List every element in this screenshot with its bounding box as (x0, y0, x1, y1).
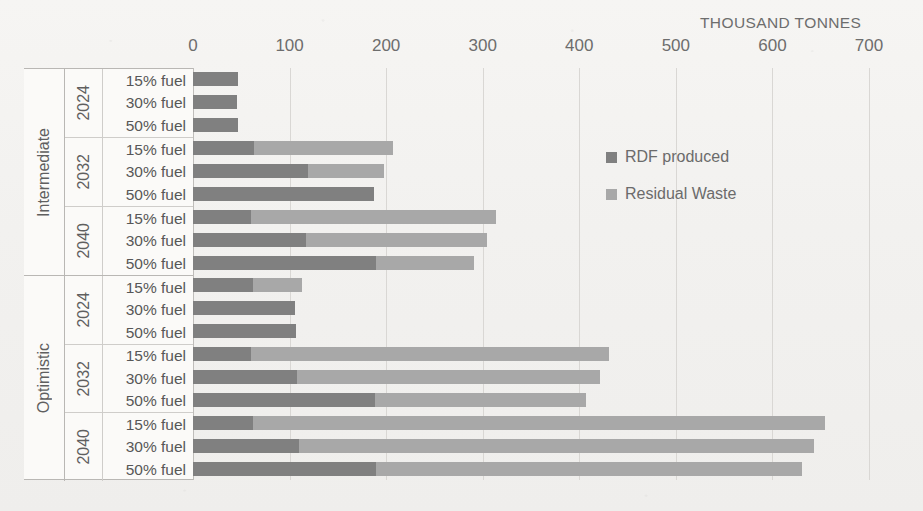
fuel-label: 15% fuel (103, 73, 193, 89)
fuel-label: 30% fuel (103, 371, 193, 387)
bar-segment-rdf-produced (193, 278, 253, 292)
fuel-label: 15% fuel (103, 417, 193, 433)
year-label: 2024 (65, 69, 103, 137)
bar-segment-residual-waste (375, 393, 586, 407)
gridline-700 (869, 68, 870, 480)
fuel-label: 15% fuel (103, 142, 193, 158)
fuel-label: 50% fuel (103, 462, 193, 478)
year-label: 2032 (65, 138, 103, 206)
bar-segment-residual-waste (308, 164, 384, 178)
x-tick-300: 300 (469, 36, 497, 56)
legend-swatch-icon (606, 189, 617, 200)
bar (193, 393, 586, 407)
bar-segment-rdf-produced (193, 256, 376, 270)
fuel-label: 30% fuel (103, 233, 193, 249)
fuel-labels: 15% fuel30% fuel50% fuel (103, 345, 193, 413)
legend-swatch-icon (606, 152, 617, 163)
scenario-group-intermediate: Intermediate202415% fuel30% fuel50% fuel… (24, 69, 193, 275)
fuel-label: 30% fuel (103, 439, 193, 455)
scenario-label: Intermediate (24, 69, 65, 275)
fuel-label: 15% fuel (103, 211, 193, 227)
bar (193, 95, 237, 109)
scenario-group-optimistic: Optimistic202415% fuel30% fuel50% fuel20… (24, 275, 193, 481)
bar (193, 301, 295, 315)
x-tick-700: 700 (855, 36, 883, 56)
year-groups: 202415% fuel30% fuel50% fuel203215% fuel… (65, 69, 193, 275)
fuel-labels: 15% fuel30% fuel50% fuel (103, 207, 193, 275)
fuel-label: 15% fuel (103, 280, 193, 296)
bar-segment-residual-waste (306, 233, 487, 247)
bar-segment-rdf-produced (193, 72, 238, 86)
year-group-2040: 204015% fuel30% fuel50% fuel (65, 206, 193, 275)
bar-segment-residual-waste (253, 278, 302, 292)
legend-item[interactable]: Residual Waste (606, 185, 736, 203)
fuel-label: 50% fuel (103, 187, 193, 203)
bar-segment-rdf-produced (193, 164, 308, 178)
fuel-label: 50% fuel (103, 393, 193, 409)
year-group-2040: 204015% fuel30% fuel50% fuel (65, 412, 193, 481)
bar (193, 347, 609, 361)
bar (193, 370, 600, 384)
bar-segment-rdf-produced (193, 141, 254, 155)
bar (193, 278, 302, 292)
bar-segment-rdf-produced (193, 462, 376, 476)
year-groups: 202415% fuel30% fuel50% fuel203215% fuel… (65, 276, 193, 481)
fuel-label: 50% fuel (103, 118, 193, 134)
year-label: 2040 (65, 413, 103, 481)
bar-segment-rdf-produced (193, 95, 237, 109)
fuel-label: 50% fuel (103, 256, 193, 272)
bar-segment-residual-waste (251, 347, 609, 361)
bar-segment-rdf-produced (193, 118, 238, 132)
bar-segment-rdf-produced (193, 393, 375, 407)
bar (193, 324, 296, 338)
bar-segment-residual-waste (251, 210, 496, 224)
bar-segment-residual-waste (254, 141, 393, 155)
fuel-label: 50% fuel (103, 325, 193, 341)
fuel-labels: 15% fuel30% fuel50% fuel (103, 413, 193, 481)
bar-segment-rdf-produced (193, 416, 253, 430)
year-group-2032: 203215% fuel30% fuel50% fuel (65, 344, 193, 413)
bar (193, 210, 496, 224)
bar (193, 164, 384, 178)
year-group-2024: 202415% fuel30% fuel50% fuel (65, 276, 193, 344)
bar-segment-residual-waste (376, 256, 474, 270)
x-tick-0: 0 (188, 36, 197, 56)
fuel-label: 30% fuel (103, 95, 193, 111)
bar (193, 256, 474, 270)
bar (193, 233, 487, 247)
bar-series-container (193, 68, 869, 480)
year-group-2032: 203215% fuel30% fuel50% fuel (65, 137, 193, 206)
axis-unit-label: THOUSAND TONNES (700, 14, 861, 32)
x-tick-400: 400 (565, 36, 593, 56)
bar (193, 72, 238, 86)
legend-label: RDF produced (625, 148, 729, 166)
bar-segment-residual-waste (299, 439, 814, 453)
plot-area (193, 68, 869, 480)
scenario-label: Optimistic (24, 276, 65, 481)
bar-segment-rdf-produced (193, 301, 295, 315)
bar-segment-rdf-produced (193, 233, 306, 247)
x-tick-600: 600 (758, 36, 786, 56)
bar-segment-rdf-produced (193, 347, 251, 361)
year-label: 2032 (65, 345, 103, 413)
year-group-2024: 202415% fuel30% fuel50% fuel (65, 69, 193, 137)
year-label: 2024 (65, 276, 103, 344)
bar-segment-residual-waste (253, 416, 825, 430)
x-tick-100: 100 (275, 36, 303, 56)
x-tick-200: 200 (372, 36, 400, 56)
bar (193, 416, 825, 430)
bar-segment-rdf-produced (193, 370, 297, 384)
legend-item[interactable]: RDF produced (606, 148, 736, 166)
fuel-labels: 15% fuel30% fuel50% fuel (103, 69, 193, 137)
bar (193, 118, 238, 132)
x-axis-tick-labels: 0100200300400500600700 (0, 36, 923, 62)
bar-segment-residual-waste (297, 370, 599, 384)
legend-label: Residual Waste (625, 185, 736, 203)
fuel-label: 30% fuel (103, 164, 193, 180)
bar (193, 187, 374, 201)
stacked-bar-chart: THOUSAND TONNES 0100200300400500600700 I… (0, 0, 923, 511)
bar-segment-rdf-produced (193, 324, 296, 338)
bar (193, 141, 393, 155)
category-axis-labels: Intermediate202415% fuel30% fuel50% fuel… (24, 68, 193, 480)
fuel-label: 15% fuel (103, 348, 193, 364)
